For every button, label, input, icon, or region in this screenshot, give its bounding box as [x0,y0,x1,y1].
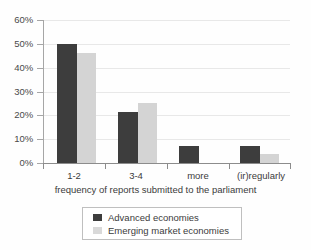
legend-label-advanced: Advanced economies [108,213,199,223]
legend-swatch-advanced-icon [93,214,102,221]
gridline-50 [43,44,290,45]
x-tick-1 [105,163,106,169]
y-tick-10 [37,139,43,140]
x-tick-4 [290,163,291,169]
bar-advanced-more [179,146,199,163]
y-label-40: 40% [0,63,33,73]
bar-advanced-1-2 [57,44,77,163]
x-tick-3 [229,163,230,169]
bar-advanced-3-4 [118,112,138,163]
legend-swatch-emerging-icon [93,227,102,234]
legend-label-emerging: Emerging market economies [108,226,229,236]
y-tick-20 [37,115,43,116]
y-label-10: 10% [0,134,33,144]
y-axis-line [43,20,44,164]
legend-item-advanced: Advanced economies [93,211,241,224]
y-tick-30 [37,92,43,93]
x-axis-title: frequency of reports submitted to the pa… [0,184,311,195]
bar-advanced-irregularly [240,146,260,163]
chart-legend: Advanced economies Emerging market econo… [82,207,242,240]
y-tick-40 [37,68,43,69]
y-tick-50 [37,44,43,45]
bar-emerging-irregularly [260,154,279,163]
bar-emerging-1-2 [77,53,96,163]
bar-emerging-3-4 [138,103,157,163]
x-label-3-4: 3-4 [105,170,167,181]
plot-area [43,20,290,163]
legend-item-emerging: Emerging market economies [93,224,241,237]
y-tick-60 [37,20,43,21]
x-label-irregularly: (ir)regularly [228,170,294,181]
gridline-60 [43,20,290,21]
y-label-30: 30% [0,87,33,97]
bar-chart: 60% 50% 40% 30% 20% 10% 0% 1-2 3-4 more … [0,0,311,250]
x-tick-0 [43,163,44,169]
x-label-1-2: 1-2 [43,170,105,181]
y-label-60: 60% [0,15,33,25]
y-label-0: 0% [0,158,33,168]
y-label-20: 20% [0,110,33,120]
x-label-more: more [167,170,229,181]
x-tick-2 [167,163,168,169]
y-label-50: 50% [0,39,33,49]
